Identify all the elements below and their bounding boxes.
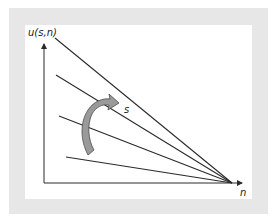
arrow-label: s [124,104,129,115]
line-4 [66,157,232,183]
x-axis-label: n [240,187,246,198]
y-axis-label: u(s,n) [28,27,57,38]
utility-diagram: u(s,n) n s [0,0,278,224]
shift-arrow-icon [82,94,119,155]
line-1 [55,38,232,183]
